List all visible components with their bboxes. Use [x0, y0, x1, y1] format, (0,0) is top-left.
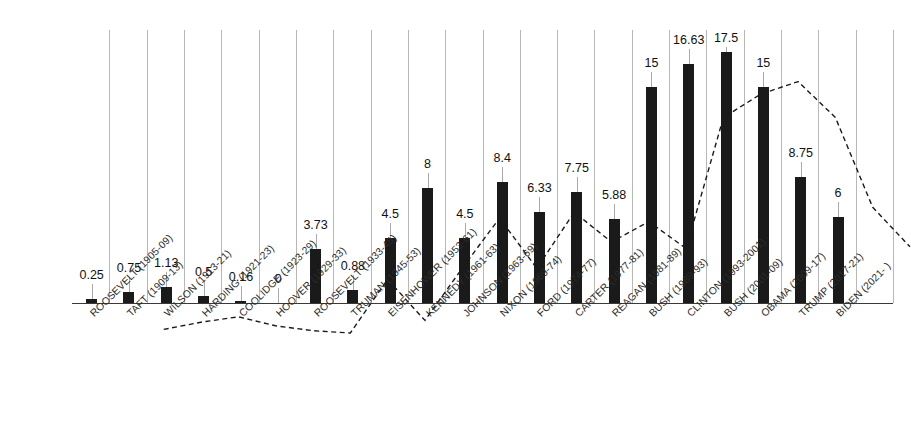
leader-line: [726, 47, 727, 52]
data-label: 17.5: [714, 32, 738, 45]
leader-line: [92, 284, 93, 299]
chart-container: 0.250.751.130.50.1603.730.884.584.58.46.…: [0, 0, 911, 448]
gridline: [109, 30, 110, 303]
trend-polyline: [164, 82, 910, 333]
data-label: 0.25: [79, 269, 103, 282]
data-label: 16.63: [673, 34, 704, 47]
category-axis-labels: ROOSEVELT (1905-09)TAFT (1909-13)WILSON …: [0, 303, 911, 448]
